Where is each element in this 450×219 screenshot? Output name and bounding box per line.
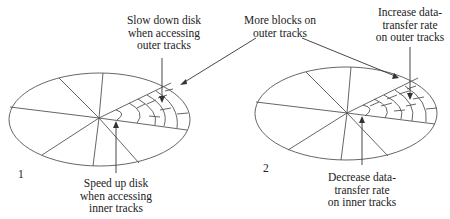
label-increase-transfer-rate: Increase data- transfer rate on outer tr…	[370, 6, 450, 44]
label-more-blocks: More blocks on outer tracks	[240, 14, 320, 39]
label-line: inner tracks	[76, 202, 156, 215]
label-line: Increase data-	[370, 6, 450, 19]
disk-1	[9, 73, 190, 166]
label-decrease-transfer-rate: Decrease data- transfer rate on inner tr…	[321, 171, 403, 209]
label-line: More blocks on	[240, 14, 320, 27]
label-line: Speed up disk	[76, 177, 156, 190]
label-line: transfer rate	[321, 184, 403, 197]
label-line: outer tracks	[124, 39, 204, 52]
arrows	[113, 38, 413, 173]
label-line: on inner tracks	[321, 196, 403, 209]
label-line: when accessing	[76, 190, 156, 203]
label-line: outer tracks	[240, 27, 320, 40]
label-line: when accessing	[124, 27, 204, 40]
label-speed-up-disk: Speed up disk when accessing inner track…	[76, 177, 156, 215]
label-line: on outer tracks	[370, 31, 450, 44]
disk-diagram: Slow down disk when accessing outer trac…	[0, 0, 450, 219]
label-line: Decrease data-	[321, 171, 403, 184]
disk-2-number: 2	[263, 162, 269, 174]
label-slow-down-disk: Slow down disk when accessing outer trac…	[124, 14, 204, 52]
disk-1-number: 1	[18, 168, 24, 180]
label-line: transfer rate	[370, 19, 450, 32]
label-line: Slow down disk	[124, 14, 204, 27]
